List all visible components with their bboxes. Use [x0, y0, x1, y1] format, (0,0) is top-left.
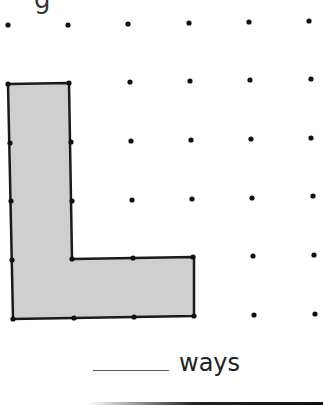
grid-dot — [248, 136, 253, 141]
grid-dot — [312, 311, 317, 316]
grid-dot — [128, 138, 133, 143]
grid-dot — [130, 255, 135, 260]
grid-dot — [10, 316, 15, 321]
grid-dot — [188, 137, 193, 142]
grid-dot — [189, 196, 194, 201]
answer-blank[interactable] — [93, 370, 169, 371]
grid-dot — [247, 77, 252, 82]
l-shape — [8, 83, 194, 319]
grid-dot — [306, 18, 311, 23]
grid-dot — [7, 140, 12, 145]
answer-line: ways — [93, 345, 240, 375]
grid-dot — [308, 135, 313, 140]
bottom-rule — [88, 402, 323, 405]
grid-dot — [68, 139, 73, 144]
grid-dot — [131, 314, 136, 319]
grid-dot — [311, 252, 316, 257]
grid-dot — [191, 313, 196, 318]
grid-dot — [9, 257, 14, 262]
grid-dot — [127, 79, 132, 84]
grid-dot — [71, 315, 76, 320]
grid-dot — [65, 22, 70, 27]
grid-dot — [250, 253, 255, 258]
grid-dot — [187, 78, 192, 83]
answer-suffix: ways — [179, 351, 240, 375]
grid-dot — [246, 19, 251, 24]
grid-dot — [125, 21, 130, 26]
grid-dot — [69, 256, 74, 261]
grid-dot — [249, 195, 254, 200]
grid-dot — [69, 198, 74, 203]
worksheet: g ways — [0, 0, 323, 406]
grid-dot — [308, 76, 313, 81]
grid-dot — [190, 254, 195, 259]
grid-dot — [251, 312, 256, 317]
grid-dot — [5, 81, 10, 86]
grid-dot — [66, 80, 71, 85]
grid-dot — [129, 197, 134, 202]
grid-dot — [310, 193, 315, 198]
grid-dot — [5, 22, 10, 27]
grid-dot — [8, 198, 13, 203]
grid-dot — [186, 20, 191, 25]
